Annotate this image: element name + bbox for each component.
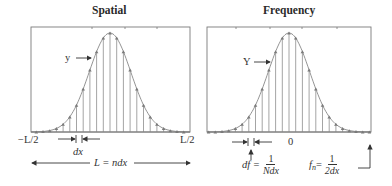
fn-subscript: n — [312, 163, 316, 172]
span-label: L = ndx — [94, 157, 127, 168]
df-lhs: df = — [242, 159, 260, 170]
fn-fraction: 1 2dx — [325, 153, 339, 176]
right-bound-label: L/2 — [180, 134, 195, 145]
fn-denominator: 2dx — [325, 165, 339, 176]
spatial-signal-label: y — [65, 52, 70, 63]
df-numerator: 1 — [266, 153, 275, 165]
df-denominator: Ndx — [263, 165, 279, 176]
df-fraction: 1 Ndx — [263, 153, 279, 176]
df-formula: df = 1 Ndx — [242, 153, 279, 176]
dx-spacing-arrows — [58, 135, 100, 143]
frequency-signal-label: Y — [243, 56, 251, 67]
frequency-plot — [207, 27, 371, 134]
zero-label: 0 — [288, 136, 293, 147]
nyquist-pointer-arrow — [358, 145, 370, 168]
left-bound-label: −L/2 — [18, 134, 39, 145]
dx-label: dx — [73, 146, 83, 157]
fn-numerator: 1 — [328, 153, 337, 165]
fn-equals: = — [316, 159, 322, 170]
fn-formula: f n = 1 2dx — [309, 153, 339, 176]
spatial-plot — [31, 27, 190, 133]
